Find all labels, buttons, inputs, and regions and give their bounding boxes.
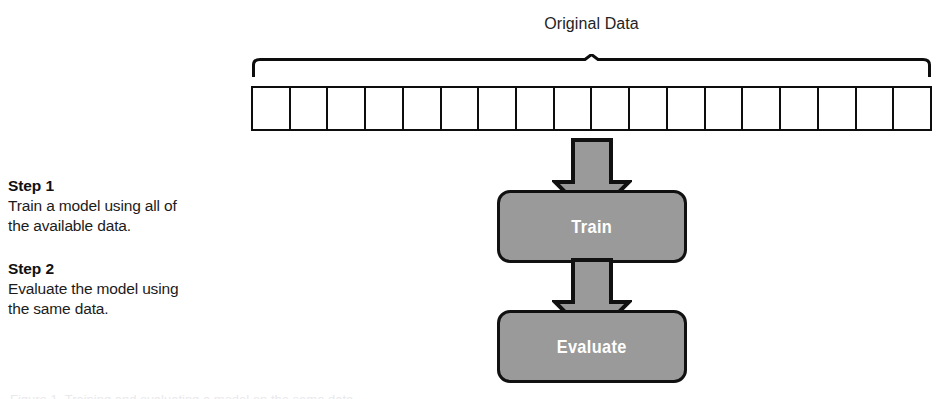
data-cell — [517, 88, 555, 129]
data-cell — [781, 88, 819, 129]
data-cell — [404, 88, 442, 129]
original-data-bracket — [251, 54, 932, 78]
process-node-train: Train — [497, 190, 687, 263]
step-block-1: Step 1 Train a model using all of the av… — [8, 176, 243, 235]
steps-column: Step 1 Train a model using all of the av… — [8, 176, 243, 342]
data-cell — [668, 88, 706, 129]
data-cell — [706, 88, 744, 129]
step-2-line-1: Evaluate the model using — [8, 279, 243, 299]
data-cell — [630, 88, 668, 129]
data-cell — [555, 88, 593, 129]
data-cell — [291, 88, 329, 129]
data-cell — [442, 88, 480, 129]
data-cell — [857, 88, 895, 129]
data-cell — [743, 88, 781, 129]
data-cell — [819, 88, 857, 129]
process-node-evaluate-label: Evaluate — [557, 336, 627, 358]
figure-caption-sliver: Figure 1. Training and evaluating a mode… — [10, 393, 930, 399]
step-1-heading: Step 1 — [8, 176, 243, 195]
step-1-line-2: the available data. — [8, 216, 243, 236]
step-2-line-2: the same data. — [8, 299, 243, 319]
original-data-label: Original Data — [0, 14, 943, 34]
step-block-2: Step 2 Evaluate the model using the same… — [8, 259, 243, 318]
data-cell — [253, 88, 291, 129]
process-node-train-label: Train — [572, 216, 613, 238]
data-cell — [894, 88, 930, 129]
original-data-label-text: Original Data — [544, 15, 639, 32]
diagram-canvas: Original Data Train — [0, 0, 943, 399]
process-node-evaluate: Evaluate — [497, 310, 687, 383]
data-cell — [479, 88, 517, 129]
data-cell — [328, 88, 366, 129]
step-2-heading: Step 2 — [8, 259, 243, 278]
original-data-row — [251, 86, 932, 131]
data-cell — [592, 88, 630, 129]
data-cell — [366, 88, 404, 129]
step-1-line-1: Train a model using all of — [8, 196, 243, 216]
